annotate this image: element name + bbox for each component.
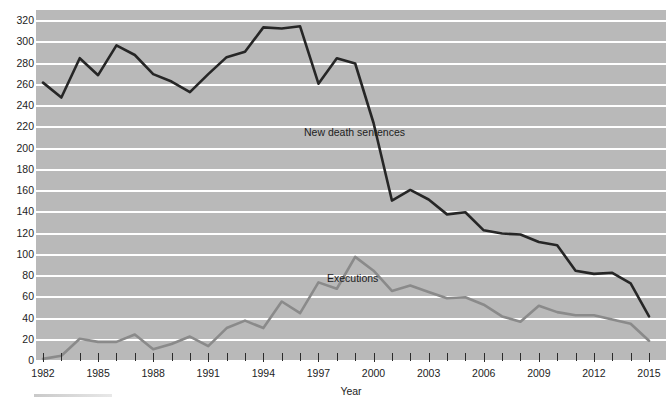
x-axis-tick-label: 2000: [362, 367, 385, 379]
plot-panel: New death sentences Executions: [36, 10, 666, 362]
x-axis-tick: [337, 353, 338, 361]
x-axis-tick-label: 2009: [527, 367, 550, 379]
y-axis-tick-label: 120: [0, 228, 34, 238]
x-axis-tick-label: 1994: [252, 367, 275, 379]
x-axis-tick: [631, 353, 632, 361]
x-axis-tick-label: 2003: [417, 367, 440, 379]
x-axis-tick: [429, 353, 430, 362]
y-axis-tick-label: 260: [0, 79, 34, 89]
y-axis-tick-label: 240: [0, 100, 34, 110]
x-axis-tick: [227, 353, 228, 361]
series-lines: [36, 10, 666, 362]
x-axis-tick: [282, 353, 283, 361]
plot-area: [36, 10, 666, 362]
x-axis-tick-label: 1985: [86, 367, 109, 379]
y-axis-tick-label: 280: [0, 58, 34, 68]
x-axis-tick-label: 2015: [637, 367, 660, 379]
x-axis-title: Year: [36, 385, 666, 397]
y-axis-tick-label: 40: [0, 313, 34, 323]
x-axis-tick: [557, 353, 558, 361]
page-artifact-bar: [34, 394, 112, 397]
x-axis-tick: [43, 353, 44, 362]
x-axis-tick: [190, 353, 191, 361]
y-axis-tick-label: 140: [0, 206, 34, 216]
x-axis-tick: [447, 353, 448, 361]
x-axis-tick: [208, 353, 209, 362]
y-axis-tick-label: 220: [0, 121, 34, 131]
x-axis-tick-label: 2006: [472, 367, 495, 379]
x-axis-tick: [116, 353, 117, 361]
x-axis-tick: [98, 353, 99, 362]
x-axis-tick: [576, 353, 577, 361]
x-axis-tick: [318, 353, 319, 362]
x-axis-tick: [172, 353, 173, 361]
x-axis-tick: [80, 353, 81, 361]
y-axis-tick-label: 160: [0, 185, 34, 195]
y-axis-tick-label: 80: [0, 270, 34, 280]
y-axis-tick-label: 320: [0, 15, 34, 25]
x-axis-tick: [61, 353, 62, 361]
x-axis-tick: [300, 353, 301, 361]
y-axis-tick-label: 180: [0, 164, 34, 174]
x-axis-tick: [392, 353, 393, 361]
x-axis-tick: [374, 353, 375, 362]
series-label-executions: Executions: [327, 272, 378, 284]
x-axis-tick: [612, 353, 613, 361]
x-axis-tick: [245, 353, 246, 361]
x-axis-tick: [484, 353, 485, 362]
x-axis-tick-label: 2012: [582, 367, 605, 379]
y-axis-tick-label: 0: [0, 355, 34, 365]
x-axis-tick: [355, 353, 356, 361]
x-axis-tick: [649, 353, 650, 362]
y-axis-tick-label: 60: [0, 291, 34, 301]
x-axis-tick-label: 1997: [307, 367, 330, 379]
series-label-new-death-sentences: New death sentences: [304, 126, 405, 138]
x-axis-tick: [594, 353, 595, 362]
x-axis-tick-label: 1982: [31, 367, 54, 379]
x-axis-tick: [520, 353, 521, 361]
y-axis-tick-label: 200: [0, 143, 34, 153]
x-axis-tick-label: 1988: [141, 367, 164, 379]
chart-figure: New death sentences Executions 020406080…: [0, 0, 672, 410]
x-axis-tick: [502, 353, 503, 361]
x-axis-tick: [465, 353, 466, 361]
y-axis-tick-label: 300: [0, 36, 34, 46]
x-axis-tick-label: 1991: [197, 367, 220, 379]
x-axis-tick: [263, 353, 264, 362]
y-axis-tick-label: 100: [0, 249, 34, 259]
x-axis-tick: [153, 353, 154, 362]
x-axis-tick: [135, 353, 136, 361]
x-axis-line: [36, 361, 666, 363]
x-axis-tick: [410, 353, 411, 361]
y-axis-tick-label: 20: [0, 334, 34, 344]
x-axis-tick: [539, 353, 540, 362]
